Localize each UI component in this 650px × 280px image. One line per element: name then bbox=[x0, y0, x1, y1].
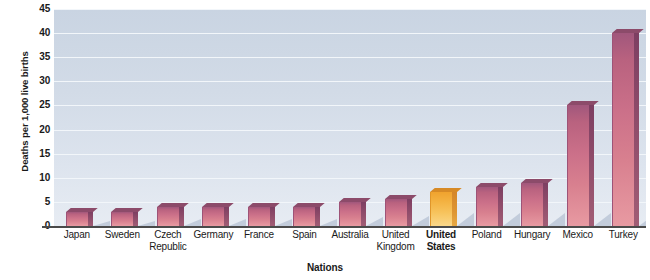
x-label-line: Kingdom bbox=[373, 241, 419, 253]
bar-side-face bbox=[634, 33, 639, 226]
x-label-line: Turkey bbox=[600, 229, 646, 241]
bar-side-face bbox=[88, 212, 93, 226]
x-axis-line bbox=[42, 226, 646, 228]
bar-top-face bbox=[430, 188, 462, 192]
x-axis-title: Nations bbox=[0, 262, 650, 273]
bar-side-face bbox=[361, 202, 366, 226]
x-label-germany: Germany bbox=[191, 229, 237, 241]
bar-front-face bbox=[66, 212, 88, 226]
bar-side-face bbox=[589, 105, 594, 226]
bar-united-kingdom[interactable] bbox=[385, 199, 407, 226]
bar-front-face bbox=[476, 187, 498, 226]
x-label-line: States bbox=[418, 241, 464, 253]
bar-front-face bbox=[157, 207, 179, 226]
bar-front-face bbox=[339, 202, 361, 226]
bar-floor-shadow bbox=[412, 216, 429, 226]
x-label-line: France bbox=[236, 229, 282, 241]
bar-side-face bbox=[179, 207, 184, 226]
bar-side-face bbox=[498, 187, 503, 226]
bar-united-states[interactable] bbox=[430, 192, 452, 226]
bar-body bbox=[248, 207, 270, 226]
y-tick-label: 15 bbox=[22, 149, 50, 159]
bar-floor-shadow bbox=[594, 213, 611, 226]
bar-body bbox=[339, 202, 361, 226]
bar-front-face bbox=[202, 207, 224, 226]
bar-front-face bbox=[111, 212, 133, 226]
bar-top-face bbox=[339, 198, 371, 202]
bar-spain[interactable] bbox=[293, 207, 315, 226]
bar-side-face bbox=[270, 207, 275, 226]
bar-sweden[interactable] bbox=[111, 212, 133, 226]
bar-body bbox=[202, 207, 224, 226]
bar-top-face bbox=[66, 208, 98, 212]
bar-floor-shadow bbox=[548, 213, 565, 226]
bar-turkey[interactable] bbox=[612, 33, 634, 226]
bar-top-face bbox=[567, 101, 599, 105]
x-label-line: Mexico bbox=[555, 229, 601, 241]
y-axis-tick-labels: 454035302520151050 bbox=[22, 0, 50, 240]
bar-floor-shadow bbox=[320, 219, 337, 226]
y-tick-label: 5 bbox=[22, 197, 50, 207]
bar-top-face bbox=[385, 195, 417, 199]
x-label-spain: Spain bbox=[282, 229, 328, 241]
x-axis-category-labels: JapanSwedenCzechRepublicGermanyFranceSpa… bbox=[54, 229, 646, 259]
bar-top-face bbox=[248, 203, 280, 207]
bar-side-face bbox=[407, 199, 412, 226]
x-label-united-kingdom: UnitedKingdom bbox=[373, 229, 419, 252]
bar-france[interactable] bbox=[248, 207, 270, 226]
x-label-czech-republic: CzechRepublic bbox=[145, 229, 191, 252]
bar-front-face bbox=[293, 207, 315, 226]
bar-front-face bbox=[567, 105, 589, 226]
gridline bbox=[54, 130, 646, 131]
bar-front-face bbox=[612, 33, 634, 226]
x-label-turkey: Turkey bbox=[600, 229, 646, 241]
bar-floor-shadow bbox=[184, 219, 201, 226]
bar-poland[interactable] bbox=[476, 187, 498, 226]
bar-top-face bbox=[293, 203, 325, 207]
x-label-mexico: Mexico bbox=[555, 229, 601, 241]
bar-top-face bbox=[157, 203, 189, 207]
x-label-france: France bbox=[236, 229, 282, 241]
bar-floor-shadow bbox=[503, 213, 520, 226]
bar-side-face bbox=[133, 212, 138, 226]
x-label-united-states: UnitedStates bbox=[418, 229, 464, 252]
bar-body bbox=[612, 33, 634, 226]
bar-side-face bbox=[315, 207, 320, 226]
bar-floor-shadow bbox=[229, 219, 246, 226]
bar-germany[interactable] bbox=[202, 207, 224, 226]
y-tick-label: 35 bbox=[22, 52, 50, 62]
x-label-line: Germany bbox=[191, 229, 237, 241]
bar-top-face bbox=[612, 29, 644, 33]
bar-australia[interactable] bbox=[339, 202, 361, 226]
bar-side-face bbox=[543, 183, 548, 226]
gridline bbox=[54, 33, 646, 34]
bar-body bbox=[476, 187, 498, 226]
bar-japan[interactable] bbox=[66, 212, 88, 226]
x-label-poland: Poland bbox=[464, 229, 510, 241]
bar-body bbox=[293, 207, 315, 226]
y-tick-label: 45 bbox=[22, 4, 50, 14]
bar-body bbox=[385, 199, 407, 226]
bar-top-face bbox=[521, 179, 553, 183]
x-label-australia: Australia bbox=[327, 229, 373, 241]
bar-side-face bbox=[224, 207, 229, 226]
bar-czech-republic[interactable] bbox=[157, 207, 179, 226]
gridline bbox=[54, 9, 646, 10]
gridline bbox=[54, 105, 646, 106]
x-label-line: Spain bbox=[282, 229, 328, 241]
gridline bbox=[54, 178, 646, 179]
x-label-sweden: Sweden bbox=[100, 229, 146, 241]
bar-body bbox=[430, 192, 452, 226]
bar-hungary[interactable] bbox=[521, 183, 543, 226]
plot-area bbox=[54, 9, 646, 226]
bar-body bbox=[521, 183, 543, 226]
x-label-japan: Japan bbox=[54, 229, 100, 241]
bar-top-face bbox=[476, 183, 508, 187]
bar-front-face bbox=[248, 207, 270, 226]
bar-front-face bbox=[385, 199, 407, 226]
bar-mexico[interactable] bbox=[567, 105, 589, 226]
x-label-line: Japan bbox=[54, 229, 100, 241]
bar-top-face bbox=[111, 208, 143, 212]
infant-mortality-bar-chart: Deaths per 1,000 live births 45403530252… bbox=[0, 0, 650, 280]
bar-body bbox=[157, 207, 179, 226]
